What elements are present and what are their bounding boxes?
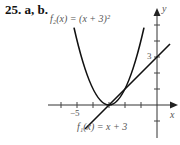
parabola-f2-curve [74, 28, 144, 105]
y-tick-label-3: 3 [147, 51, 152, 61]
x-axis-label: x [170, 109, 174, 120]
f1-label: f₁(x) = x + 3 [77, 121, 127, 132]
y-axis-arrow-icon [154, 8, 161, 16]
x-axis-arrow-icon [170, 102, 178, 109]
x-tick-label-neg5: −5 [70, 108, 80, 118]
y-axis-label: y [162, 3, 166, 14]
f2-label: f₂(x) = (x + 3)² [50, 13, 110, 24]
